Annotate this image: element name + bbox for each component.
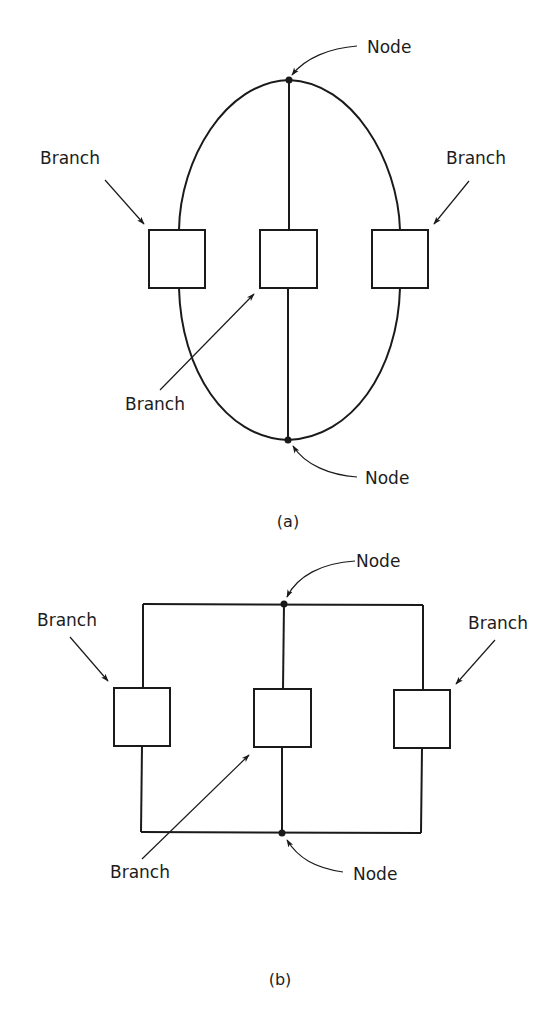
left-lower-wire — [141, 746, 142, 832]
branch-box-right — [394, 690, 450, 748]
caption-b: (b) — [269, 970, 292, 989]
node-dot-top — [286, 77, 293, 84]
label-node-top: Node — [356, 551, 400, 571]
pointer-branch-left — [105, 180, 144, 224]
pointer-branch-right — [456, 640, 495, 684]
diagram-b: Node Branch Branch Branch Node (b) — [37, 551, 528, 989]
label-node-bottom: Node — [365, 468, 409, 488]
branch-box-middle — [254, 689, 311, 747]
label-node-bottom: Node — [353, 864, 397, 884]
caption-a: (a) — [277, 512, 299, 531]
pointer-branch-middle — [160, 294, 254, 390]
right-lower-wire — [421, 748, 422, 833]
pointer-node-top — [292, 46, 357, 75]
branch-box-right — [372, 230, 428, 288]
figure-canvas: Node Branch Branch Branch Node (a) Node — [0, 0, 554, 1016]
ellipse-right-upper-wire — [289, 80, 400, 230]
pointer-branch-right — [434, 181, 469, 224]
label-node-top: Node — [367, 37, 411, 57]
label-branch-left: Branch — [40, 148, 100, 168]
label-branch-right: Branch — [446, 148, 506, 168]
ellipse-right-lower-wire — [288, 288, 400, 440]
branch-box-middle — [260, 230, 317, 288]
label-branch-right: Branch — [468, 613, 528, 633]
node-dot-bottom — [285, 437, 292, 444]
diagram-a: Node Branch Branch Branch Node (a) — [40, 37, 506, 531]
label-branch-left: Branch — [37, 610, 97, 630]
branch-box-left — [114, 688, 170, 746]
label-branch-middle: Branch — [125, 394, 185, 414]
pointer-node-top — [287, 561, 355, 597]
branch-box-left — [149, 230, 205, 288]
pointer-branch-middle — [142, 755, 249, 859]
node-dot-top — [281, 601, 288, 608]
ellipse-left-upper-wire — [179, 80, 289, 230]
pointer-node-bottom — [287, 840, 343, 872]
pointer-branch-left — [70, 637, 108, 681]
ellipse-left-lower-wire — [179, 288, 288, 440]
center-upper-wire — [283, 604, 284, 689]
node-dot-bottom — [279, 830, 286, 837]
pointer-node-bottom — [293, 446, 357, 477]
label-branch-middle: Branch — [110, 862, 170, 882]
